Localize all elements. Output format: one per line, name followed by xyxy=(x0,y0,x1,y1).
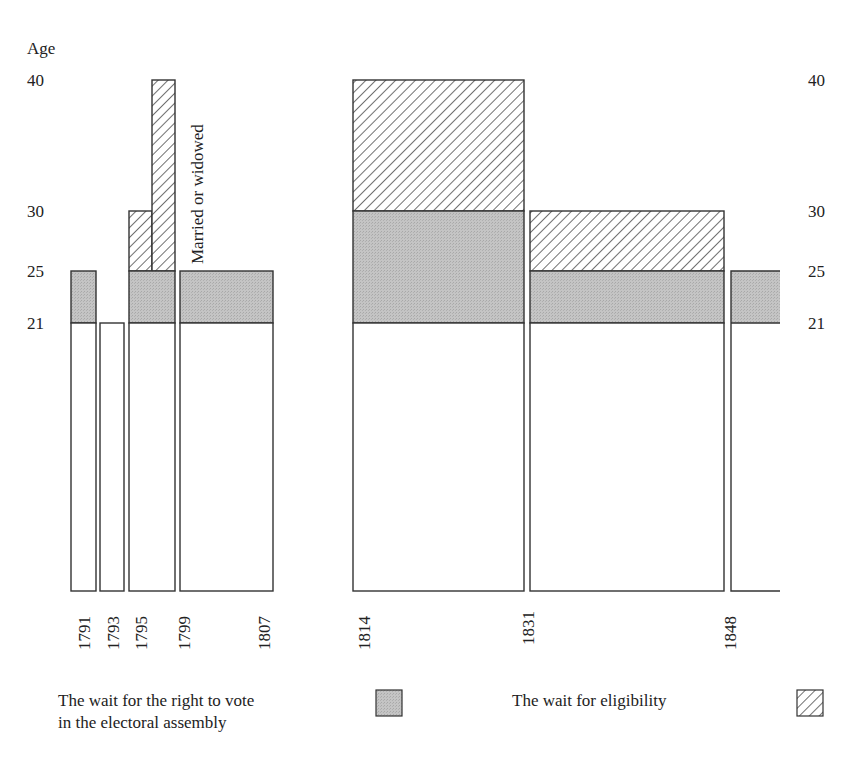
bar-1831-base xyxy=(530,323,724,591)
x-tick-1793: 1793 xyxy=(104,616,123,650)
annotation-married-or-widowed: Married or widowed xyxy=(188,124,207,264)
legend-vote-line1: The wait for the right to vote xyxy=(58,690,254,712)
bar-1814-eligibility xyxy=(353,80,524,211)
legend-vote-line2: in the electoral assembly xyxy=(58,712,254,734)
bar-1791-base xyxy=(71,323,96,591)
bar-1795-eligibility-40 xyxy=(152,80,175,271)
bar-1831-vote-wait xyxy=(530,271,724,323)
bar-1795-vote-wait xyxy=(129,271,175,323)
bar-1791-vote-wait xyxy=(71,271,96,323)
y-tick-40-left: 40 xyxy=(27,71,44,90)
bar-1848 xyxy=(731,271,780,591)
x-tick-1807: 1807 xyxy=(255,616,274,651)
bar-1793-base xyxy=(100,323,124,591)
y-tick-40-right: 40 xyxy=(808,71,825,90)
bar-1795-eligibility-30 xyxy=(129,211,152,271)
x-tick-1799: 1799 xyxy=(175,616,194,650)
chart-canvas: Age 40 30 25 21 40 30 25 21 Married or xyxy=(0,0,866,776)
legend-eligibility: The wait for eligibility xyxy=(512,690,666,712)
legend-swatch-eligibility xyxy=(797,690,823,716)
x-tick-1814: 1814 xyxy=(355,616,374,651)
legend-vote-wait: The wait for the right to vote in the el… xyxy=(58,690,254,734)
bar-1795-base xyxy=(129,323,175,591)
bar-1799-vote-wait xyxy=(180,271,273,323)
x-tick-1791: 1791 xyxy=(75,616,94,650)
x-tick-1831: 1831 xyxy=(519,611,538,645)
bar-1814-base xyxy=(353,323,524,591)
y-tick-30-right: 30 xyxy=(808,202,825,221)
bar-1831-eligibility xyxy=(530,211,724,271)
y-tick-25-left: 25 xyxy=(27,262,44,281)
bar-1814-vote-wait xyxy=(353,211,524,323)
y-tick-30-left: 30 xyxy=(27,202,44,221)
bar-1799-base xyxy=(180,323,273,591)
y-tick-21-left: 21 xyxy=(27,314,44,333)
legend-swatch-vote-wait xyxy=(376,690,402,716)
x-tick-1848: 1848 xyxy=(721,616,740,650)
y-axis-title: Age xyxy=(27,39,55,58)
y-tick-25-right: 25 xyxy=(808,262,825,281)
bars-group xyxy=(71,80,724,591)
y-tick-21-right: 21 xyxy=(808,314,825,333)
x-tick-1795: 1795 xyxy=(132,616,151,650)
